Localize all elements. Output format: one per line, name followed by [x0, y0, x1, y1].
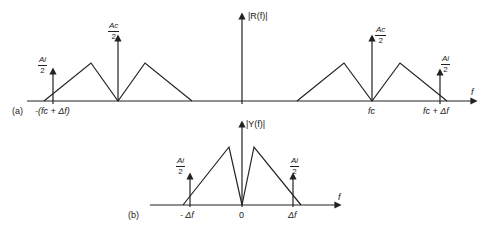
panel-a-right-interferer-amplitude: Ai 2 — [441, 55, 450, 74]
panel-b-tick-df: Δf — [288, 211, 297, 220]
panel-b-y-label: |Y(f)| — [246, 120, 265, 129]
panel-a-graph — [27, 16, 474, 104]
panel-a-tag: (a) — [12, 107, 23, 116]
panel-a-y-label: |R(f)| — [248, 12, 268, 21]
panel-b-tick-neg-df: - Δf — [180, 211, 194, 220]
panel-a-tick-fc-plus-df: fc + Δf — [423, 107, 449, 116]
panel-a-left-interferer-amplitude: Ai 2 — [38, 56, 47, 75]
spectrum-figure: |R(f)| f (a) -(fc + Δf) fc fc + Δf Ac 2 … — [0, 0, 485, 230]
panel-a-left-carrier-amplitude: Ac 2 — [108, 22, 119, 41]
panel-a-tick-neg-fc-plus-df: -(fc + Δf) — [35, 107, 70, 116]
panel-a-right-carrier-amplitude: Ac 2 — [375, 26, 386, 45]
panel-a-tick-fc: fc — [368, 107, 375, 116]
panel-b-tick-zero: 0 — [239, 211, 244, 220]
panel-b-tag: (b) — [128, 211, 139, 220]
panel-b-left-interferer-amplitude: Ai 2 — [176, 157, 185, 176]
panel-a-x-label: f — [471, 88, 474, 97]
panel-b-right-interferer-amplitude: Ai 2 — [290, 157, 299, 176]
spectrum-plot-lines — [0, 0, 485, 230]
panel-b-x-label: f — [338, 193, 341, 202]
